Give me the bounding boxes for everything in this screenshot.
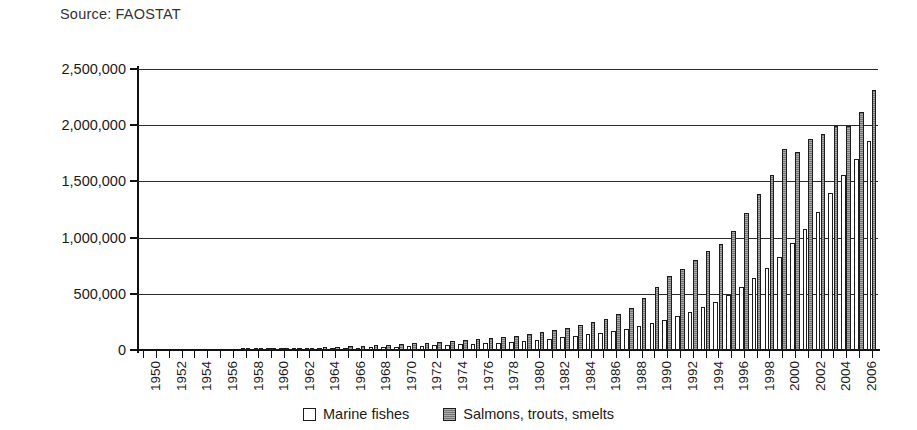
x-axis-tick	[808, 351, 809, 358]
x-axis-tick-label: 1982	[557, 361, 572, 391]
bar	[854, 159, 859, 350]
bar	[642, 298, 647, 350]
bar	[560, 337, 565, 350]
bar	[489, 338, 494, 350]
x-axis-tick-label: 1960	[276, 361, 291, 391]
bar	[624, 329, 629, 350]
bar	[782, 149, 787, 350]
bar	[693, 260, 698, 350]
bar	[496, 343, 501, 350]
bar	[297, 348, 302, 350]
bar	[437, 342, 442, 350]
bar	[821, 134, 826, 350]
x-axis-tick-label: 1984	[583, 361, 598, 391]
chart-legend: Marine fishesSalmons, trouts, smelts	[0, 406, 917, 422]
x-axis-tick	[463, 351, 464, 358]
bar	[808, 139, 813, 350]
x-axis-tick	[693, 351, 694, 358]
bar	[241, 348, 246, 350]
bar	[650, 323, 655, 350]
x-axis-tick	[654, 351, 655, 358]
x-axis-tick	[731, 351, 732, 358]
bar	[522, 341, 527, 350]
x-axis-tick	[476, 351, 477, 358]
bar	[688, 312, 693, 350]
x-axis-tick	[706, 351, 707, 358]
y-axis-tick	[130, 349, 137, 351]
bar	[578, 325, 583, 350]
bar	[629, 308, 634, 350]
gray-square-icon	[443, 408, 456, 421]
bar	[369, 347, 374, 350]
white-square-icon	[303, 408, 316, 421]
x-axis-tick-label: 1994	[711, 361, 726, 391]
x-axis-tick	[718, 351, 719, 358]
plot-area	[137, 69, 878, 350]
x-axis-tick-label: 2000	[787, 361, 802, 391]
y-axis-tick	[130, 124, 137, 126]
x-axis-tick-label: 1974	[455, 361, 470, 391]
bar	[509, 342, 514, 350]
x-axis-tick-label: 1966	[353, 361, 368, 391]
bar	[816, 212, 821, 350]
bar	[425, 343, 430, 350]
bar	[246, 348, 251, 350]
bar	[765, 268, 770, 350]
bar	[420, 346, 425, 350]
source-caption: Source: FAOSTAT	[60, 6, 181, 22]
y-axis-tick	[130, 293, 137, 295]
bar	[266, 348, 271, 350]
bar	[731, 231, 736, 350]
bar	[412, 343, 417, 350]
x-axis-tick	[361, 351, 362, 358]
bar	[254, 348, 259, 350]
bar	[803, 229, 808, 350]
bar	[445, 345, 450, 350]
y-axis-tick	[130, 180, 137, 182]
bar	[514, 336, 519, 350]
bar	[343, 348, 348, 350]
x-axis-tick	[233, 351, 234, 358]
x-axis-tick	[297, 351, 298, 358]
bar	[399, 344, 404, 350]
bar	[476, 339, 481, 350]
x-axis-tick	[821, 351, 822, 358]
x-axis-tick-label: 2004	[838, 361, 853, 391]
bar	[739, 287, 744, 350]
bar	[573, 336, 578, 350]
x-axis-tick	[757, 351, 758, 358]
x-axis-tick-label: 1962	[302, 361, 317, 391]
x-axis-tick	[795, 351, 796, 358]
bar	[680, 269, 685, 350]
bar	[458, 344, 463, 350]
bar	[662, 320, 667, 350]
bar	[527, 334, 532, 350]
bar	[540, 332, 545, 350]
x-axis-tick-label: 1950	[148, 361, 163, 391]
x-axis-tick	[680, 351, 681, 358]
x-axis-tick	[859, 351, 860, 358]
x-axis-tick-label: 1958	[251, 361, 266, 391]
bar	[744, 213, 749, 350]
bar	[675, 316, 680, 350]
x-axis-tick-label: 1972	[429, 361, 444, 391]
x-axis-tick-label: 1988	[634, 361, 649, 391]
bar	[330, 348, 335, 350]
bar	[770, 175, 775, 350]
bar	[310, 348, 315, 350]
x-axis-tick	[603, 351, 604, 358]
y-axis-tick	[130, 237, 137, 239]
y-axis-tick	[130, 68, 137, 70]
bar	[483, 343, 488, 350]
bar	[859, 112, 864, 350]
x-axis-tick-label: 1996	[736, 361, 751, 391]
chart-figure: Source: FAOSTAT 0500,0001,000,0001,500,0…	[0, 0, 917, 430]
bar	[726, 295, 731, 350]
x-axis-tick	[194, 351, 195, 358]
bar	[611, 331, 616, 350]
bar	[394, 347, 399, 350]
bars-layer	[137, 69, 878, 350]
bar	[828, 193, 833, 350]
y-axis-tick-label: 2,500,000	[0, 61, 126, 77]
bar	[374, 345, 379, 350]
